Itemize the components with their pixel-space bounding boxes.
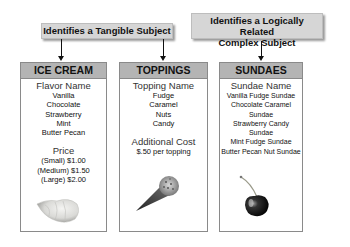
sundae-item: Mint Fudge Sundae <box>220 137 302 146</box>
cherry-image <box>237 173 273 219</box>
complex-subject-text-line1: Identifies a Logically Related <box>192 15 322 37</box>
sundae-name-heading: Sundae Name <box>220 81 302 91</box>
sundaes-card: SUNDAES Sundae Name Vanilla Fudge Sundae… <box>219 62 303 232</box>
sundae-item: Strawberry Candy Sundae <box>220 119 302 138</box>
tangible-subject-text: Identifies a Tangible Subject <box>43 25 171 36</box>
sundaes-title: SUNDAES <box>220 63 302 79</box>
ice-cream-title: ICE CREAM <box>21 63 106 79</box>
complex-subject-label: Identifies a Logically Related Complex S… <box>191 13 323 39</box>
sundae-item: Butter Pecan Nut Sundae <box>220 147 302 156</box>
additional-cost-heading: Additional Cost <box>120 137 207 147</box>
price-item: (Medium) $1.50 <box>21 166 106 175</box>
topping-name-heading: Topping Name <box>120 81 207 91</box>
flavor-item: Chocolate <box>21 100 106 109</box>
arrow-to-sundaes <box>261 41 262 57</box>
flavor-item: Strawberry <box>21 110 106 119</box>
toppings-title: TOPPINGS <box>120 63 207 79</box>
sundae-item: Vanilla Fudge Sundae <box>220 91 302 100</box>
sundae-item: Chocolate Caramel Sundae <box>220 100 302 119</box>
ice-cream-scoop-image <box>35 196 81 224</box>
complex-subject-text-line2: Complex Subject <box>192 37 322 48</box>
ice-cream-card: ICE CREAM Flavor Name Vanilla Chocolate … <box>20 62 107 232</box>
flavor-item: Vanilla <box>21 91 106 100</box>
arrow-to-ice-cream <box>61 39 62 57</box>
arrow-to-toppings <box>163 39 164 57</box>
price-item: (Small) $1.00 <box>21 156 106 165</box>
topping-item: Fudge <box>120 91 207 100</box>
additional-cost-value: $.50 per topping <box>120 147 207 156</box>
flavor-item: Mint <box>21 119 106 128</box>
topping-item: Caramel <box>120 100 207 109</box>
toppings-card: TOPPINGS Topping Name Fudge Caramel Nuts… <box>119 62 208 232</box>
flavor-name-heading: Flavor Name <box>21 81 106 91</box>
price-heading: Price <box>21 146 106 156</box>
tangible-subject-label: Identifies a Tangible Subject <box>41 23 173 39</box>
topping-item: Candy <box>120 119 207 128</box>
price-item: (Large) $2.00 <box>21 175 106 184</box>
topping-item: Nuts <box>120 110 207 119</box>
flavor-item: Butter Pecan <box>21 128 106 137</box>
ice-cream-cone-image <box>134 171 180 213</box>
